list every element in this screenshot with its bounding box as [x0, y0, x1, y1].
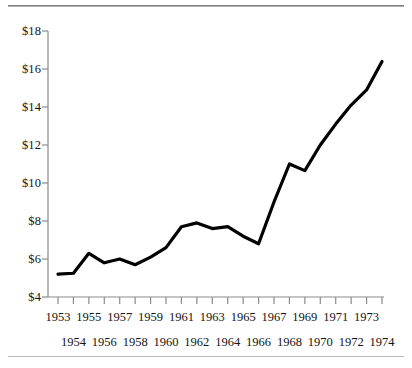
x-axis-tick-label: 1955 [72, 311, 106, 324]
y-axis-tick-label: $18 [8, 25, 41, 38]
axis-lines [48, 31, 384, 297]
x-axis-tick-label: 1965 [226, 311, 260, 324]
x-axis-tick-label: 1960 [149, 336, 183, 349]
y-axis-tick-label: $12 [8, 139, 41, 152]
x-axis-tick-label: 1974 [365, 336, 399, 349]
x-axis-tick-label: 1971 [319, 311, 353, 324]
x-axis-tick-label: 1968 [272, 336, 306, 349]
x-axis-tick-label: 1961 [164, 311, 198, 324]
y-axis-tick-label: $10 [8, 177, 41, 190]
x-axis-tick-label: 1959 [134, 311, 168, 324]
x-axis-ticks [58, 297, 382, 304]
x-axis-tick-label: 1966 [242, 336, 276, 349]
x-axis-tick-label: 1972 [334, 336, 368, 349]
line-chart-figure: $4$6$8$10$12$14$16$18 195319551957195919… [0, 0, 412, 368]
x-axis-tick-label: 1957 [103, 311, 137, 324]
x-axis-tick-label: 1956 [87, 336, 121, 349]
x-axis-tick-label: 1967 [257, 311, 291, 324]
x-axis-tick-label: 1964 [211, 336, 245, 349]
x-axis-tick-label: 1970 [303, 336, 337, 349]
y-axis-tick-label: $6 [8, 253, 41, 266]
x-axis-tick-label: 1954 [56, 336, 90, 349]
y-axis-tick-label: $14 [8, 101, 41, 114]
y-axis-tick-label: $8 [8, 215, 41, 228]
y-axis-ticks [42, 31, 48, 297]
x-axis-tick-label: 1963 [195, 311, 229, 324]
y-axis-tick-label: $4 [8, 291, 41, 304]
x-axis-tick-label: 1973 [350, 311, 384, 324]
x-axis-tick-label: 1953 [41, 311, 75, 324]
data-series-line [58, 61, 382, 274]
x-axis-tick-label: 1962 [180, 336, 214, 349]
y-axis-tick-label: $16 [8, 63, 41, 76]
x-axis-tick-label: 1969 [288, 311, 322, 324]
x-axis-tick-label: 1958 [118, 336, 152, 349]
